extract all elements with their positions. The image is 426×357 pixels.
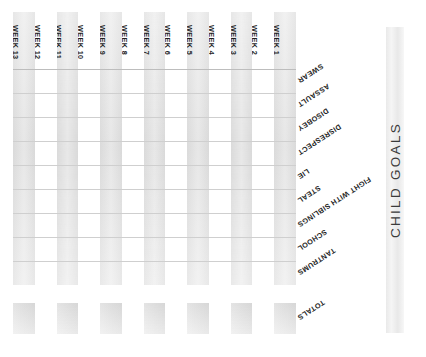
grid-cell[interactable] <box>252 262 274 285</box>
grid-cell[interactable] <box>57 262 79 285</box>
totals-cell[interactable] <box>274 303 296 334</box>
week-header-cell[interactable]: WEEK 5 <box>187 12 209 69</box>
grid-cell[interactable] <box>252 118 274 141</box>
grid-cell[interactable] <box>209 166 231 189</box>
grid-cell[interactable] <box>187 118 209 141</box>
grid-cell[interactable] <box>78 238 100 261</box>
totals-cell[interactable] <box>13 303 35 334</box>
grid-cell[interactable] <box>165 118 187 141</box>
grid-cell[interactable] <box>144 118 166 141</box>
grid-cell[interactable] <box>100 214 122 237</box>
week-header-cell[interactable]: WEEK 7 <box>144 12 166 69</box>
grid-cell[interactable] <box>57 94 79 117</box>
grid-cell[interactable] <box>144 190 166 213</box>
grid-cell[interactable] <box>187 142 209 165</box>
grid-cell[interactable] <box>187 94 209 117</box>
grid-cell[interactable] <box>100 70 122 93</box>
grid-cell[interactable] <box>35 166 57 189</box>
grid-cell[interactable] <box>231 214 253 237</box>
grid-cell[interactable] <box>144 166 166 189</box>
grid-cell[interactable] <box>252 214 274 237</box>
grid-cell[interactable] <box>122 166 144 189</box>
grid-cell[interactable] <box>274 262 296 285</box>
totals-cell[interactable] <box>187 303 209 334</box>
totals-cell[interactable] <box>231 303 253 334</box>
grid-cell[interactable] <box>274 94 296 117</box>
grid-cell[interactable] <box>57 190 79 213</box>
week-header-cell[interactable]: WEEK 1 <box>274 12 296 69</box>
totals-cell[interactable] <box>57 303 79 334</box>
grid-cell[interactable] <box>165 94 187 117</box>
grid-cell[interactable] <box>209 142 231 165</box>
grid-cell[interactable] <box>252 190 274 213</box>
totals-cell[interactable] <box>144 303 166 334</box>
grid-cell[interactable] <box>35 142 57 165</box>
grid-cell[interactable] <box>78 262 100 285</box>
grid-cell[interactable] <box>187 166 209 189</box>
week-header-cell[interactable]: WEEK 10 <box>78 12 100 69</box>
grid-cell[interactable] <box>122 118 144 141</box>
grid-cell[interactable] <box>57 142 79 165</box>
grid-cell[interactable] <box>57 166 79 189</box>
grid-cell[interactable] <box>231 166 253 189</box>
grid-cell[interactable] <box>274 142 296 165</box>
grid-cell[interactable] <box>78 118 100 141</box>
grid-cell[interactable] <box>187 238 209 261</box>
grid-cell[interactable] <box>35 118 57 141</box>
grid-cell[interactable] <box>35 262 57 285</box>
grid-cell[interactable] <box>144 70 166 93</box>
grid-cell[interactable] <box>231 94 253 117</box>
grid-cell[interactable] <box>165 142 187 165</box>
grid-cell[interactable] <box>100 166 122 189</box>
grid-cell[interactable] <box>13 94 35 117</box>
grid-cell[interactable] <box>35 190 57 213</box>
grid-cell[interactable] <box>144 262 166 285</box>
grid-cell[interactable] <box>122 214 144 237</box>
grid-cell[interactable] <box>231 238 253 261</box>
grid-cell[interactable] <box>122 70 144 93</box>
grid-cell[interactable] <box>78 94 100 117</box>
week-header-cell[interactable]: WEEK 9 <box>100 12 122 69</box>
grid-cell[interactable] <box>209 190 231 213</box>
grid-cell[interactable] <box>252 166 274 189</box>
totals-cell[interactable] <box>100 303 122 334</box>
grid-cell[interactable] <box>252 70 274 93</box>
grid-cell[interactable] <box>165 166 187 189</box>
week-header-cell[interactable]: WEEK 13 <box>13 12 35 69</box>
grid-cell[interactable] <box>231 262 253 285</box>
grid-cell[interactable] <box>78 190 100 213</box>
grid-cell[interactable] <box>57 70 79 93</box>
week-header-cell[interactable]: WEEK 11 <box>57 12 79 69</box>
week-header-cell[interactable]: WEEK 8 <box>122 12 144 69</box>
grid-cell[interactable] <box>122 142 144 165</box>
grid-cell[interactable] <box>78 214 100 237</box>
grid-cell[interactable] <box>100 262 122 285</box>
grid-cell[interactable] <box>274 166 296 189</box>
week-header-cell[interactable]: WEEK 4 <box>209 12 231 69</box>
grid-cell[interactable] <box>100 238 122 261</box>
totals-cell[interactable] <box>35 303 57 334</box>
totals-cell[interactable] <box>78 303 100 334</box>
grid-cell[interactable] <box>165 190 187 213</box>
grid-cell[interactable] <box>35 238 57 261</box>
grid-cell[interactable] <box>187 214 209 237</box>
grid-cell[interactable] <box>57 118 79 141</box>
grid-cell[interactable] <box>144 142 166 165</box>
grid-cell[interactable] <box>252 94 274 117</box>
week-header-cell[interactable]: WEEK 2 <box>252 12 274 69</box>
totals-cell[interactable] <box>122 303 144 334</box>
grid-cell[interactable] <box>209 94 231 117</box>
week-header-cell[interactable]: WEEK 6 <box>165 12 187 69</box>
grid-cell[interactable] <box>122 94 144 117</box>
grid-cell[interactable] <box>209 214 231 237</box>
grid-cell[interactable] <box>274 190 296 213</box>
grid-cell[interactable] <box>165 214 187 237</box>
grid-cell[interactable] <box>13 166 35 189</box>
grid-cell[interactable] <box>231 70 253 93</box>
grid-cell[interactable] <box>165 238 187 261</box>
grid-cell[interactable] <box>13 214 35 237</box>
grid-cell[interactable] <box>57 238 79 261</box>
grid-cell[interactable] <box>35 214 57 237</box>
grid-cell[interactable] <box>144 238 166 261</box>
grid-cell[interactable] <box>13 142 35 165</box>
